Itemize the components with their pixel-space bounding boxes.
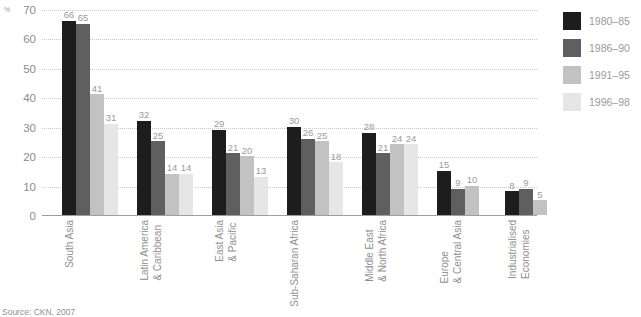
- x-category-label-line: East Asia: [214, 220, 226, 262]
- y-axis-tick-labels: 010203040506070: [6, 10, 36, 216]
- bar[interactable]: 18: [329, 162, 343, 215]
- legend-item[interactable]: 1996–98: [563, 93, 630, 111]
- bar-slot: 24: [390, 9, 404, 215]
- x-category-label-line: Economies: [520, 220, 532, 279]
- legend-swatch: [563, 93, 581, 111]
- bar-group: 895: [505, 9, 547, 215]
- x-category-label-line: Europe: [439, 220, 451, 283]
- bar-value-label: 10: [467, 175, 478, 185]
- bar[interactable]: 31: [104, 124, 118, 215]
- y-tick-label: 60: [10, 33, 36, 45]
- bar-slot: 65: [76, 9, 90, 215]
- bar-slot: 32: [137, 9, 151, 215]
- bar-slot: 9: [451, 9, 465, 215]
- bar-value-label: 25: [153, 131, 164, 141]
- x-category-label-line: & Central Asia: [452, 220, 464, 283]
- x-category-label-line: Industrialised: [507, 220, 519, 279]
- bar-slot: 14: [165, 9, 179, 215]
- bar-value-label: 25: [317, 131, 328, 141]
- bar[interactable]: 30: [287, 127, 301, 215]
- bar-group: 32251414: [137, 9, 193, 215]
- bar[interactable]: 65: [76, 24, 90, 215]
- bar-slot: 24: [404, 9, 418, 215]
- bar[interactable]: 32: [137, 121, 151, 215]
- bar[interactable]: 29: [212, 130, 226, 215]
- bar-value-label: 31: [106, 113, 117, 123]
- bar-slot: 10: [465, 9, 479, 215]
- bar-value-label: 30: [289, 116, 300, 126]
- bar[interactable]: 15: [437, 171, 451, 215]
- bar-chart: % 010203040506070 6665413132251414292120…: [0, 0, 641, 317]
- bar[interactable]: 14: [165, 174, 179, 215]
- bar[interactable]: 5: [533, 200, 547, 215]
- bar-group: 66654131: [62, 9, 118, 215]
- bar-group: 15910: [437, 9, 479, 215]
- bar-group: 29212013: [212, 9, 268, 215]
- x-category-label-line: Sub-Saharan Africa: [289, 220, 301, 307]
- legend-item[interactable]: 1980–85: [563, 12, 630, 30]
- legend-swatch: [563, 39, 581, 57]
- bar[interactable]: 66: [62, 21, 76, 215]
- legend-item[interactable]: 1986–90: [563, 39, 630, 57]
- bar[interactable]: 21: [376, 153, 390, 215]
- bar[interactable]: 13: [254, 177, 268, 215]
- bar-value-label: 21: [228, 143, 239, 153]
- bar-groups: 6665413132251414292120133026251828212424…: [42, 10, 537, 215]
- y-tick-label: 30: [10, 122, 36, 134]
- bar[interactable]: 25: [151, 141, 165, 215]
- bar-slot: 29: [212, 9, 226, 215]
- x-axis-category-labels: South AsiaLatin America& CaribbeanEast A…: [42, 218, 537, 314]
- legend-label: 1980–85: [589, 16, 630, 27]
- bar[interactable]: 14: [179, 174, 193, 215]
- bar[interactable]: 24: [390, 144, 404, 215]
- x-category-label-line: South Asia: [64, 220, 76, 268]
- bar-slot: 41: [90, 9, 104, 215]
- bar-value-label: 29: [214, 119, 225, 129]
- bar-value-label: 41: [92, 84, 103, 94]
- bar-slot: 25: [315, 9, 329, 215]
- bar[interactable]: 41: [90, 94, 104, 215]
- bar-slot: 21: [376, 9, 390, 215]
- legend-item[interactable]: 1991–95: [563, 66, 630, 84]
- y-tick-label: 20: [10, 151, 36, 163]
- bar-slot: 21: [226, 9, 240, 215]
- bar-group: 28212424: [362, 9, 418, 215]
- bar[interactable]: 28: [362, 133, 376, 215]
- bar-value-label: 9: [455, 178, 460, 188]
- bar-value-label: 20: [242, 146, 253, 156]
- x-axis-line: [42, 215, 537, 216]
- bar-value-label: 28: [364, 122, 375, 132]
- x-category-label-line: & Caribbean: [152, 220, 164, 281]
- bar-value-label: 15: [439, 160, 450, 170]
- bar-value-label: 18: [331, 152, 342, 162]
- bar[interactable]: 8: [505, 191, 519, 215]
- y-tick-label: 0: [10, 210, 36, 222]
- bar-slot: 26: [301, 9, 315, 215]
- bar-value-label: 32: [139, 110, 150, 120]
- bar-slot: 9: [519, 9, 533, 215]
- bar-group: 30262518: [287, 9, 343, 215]
- bar-value-label: 26: [303, 128, 314, 138]
- legend-swatch: [563, 66, 581, 84]
- bar[interactable]: 9: [519, 189, 533, 215]
- legend-swatch: [563, 12, 581, 30]
- legend-label: 1991–95: [589, 70, 630, 81]
- bar-slot: 66: [62, 9, 76, 215]
- bar-value-label: 24: [406, 134, 417, 144]
- bar-slot: 25: [151, 9, 165, 215]
- bar-value-label: 13: [256, 166, 267, 176]
- plot-area: 6665413132251414292120133026251828212424…: [42, 10, 537, 216]
- bar-slot: 28: [362, 9, 376, 215]
- bar-value-label: 9: [523, 178, 528, 188]
- bar[interactable]: 25: [315, 141, 329, 215]
- bar[interactable]: 21: [226, 153, 240, 215]
- bar[interactable]: 9: [451, 189, 465, 215]
- bar-slot: 15: [437, 9, 451, 215]
- bar[interactable]: 10: [465, 186, 479, 215]
- bar[interactable]: 26: [301, 139, 315, 216]
- bar[interactable]: 24: [404, 144, 418, 215]
- legend: 1980–851986–901991–951996–98: [563, 12, 630, 111]
- bar[interactable]: 20: [240, 156, 254, 215]
- bar-value-label: 8: [509, 181, 514, 191]
- bar-value-label: 66: [64, 10, 75, 20]
